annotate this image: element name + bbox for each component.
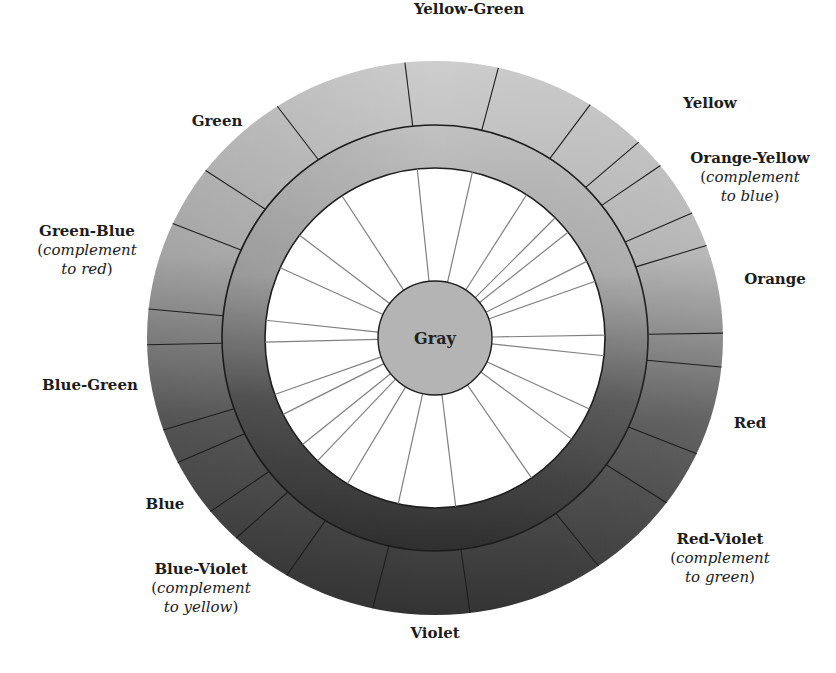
label-note: to yellow): [136, 598, 266, 617]
label-yellow: Yellow: [660, 94, 760, 113]
label-note: (complement: [665, 168, 835, 187]
label-name: Red: [720, 414, 780, 433]
label-note: (complement: [22, 241, 152, 260]
label-name: Yellow-Green: [384, 0, 554, 19]
label-name: Yellow: [660, 94, 760, 113]
label-name: Violet: [380, 624, 490, 643]
label-note: (complement: [136, 579, 266, 598]
label-red: Red: [720, 414, 780, 433]
label-name: Green-Blue: [22, 222, 152, 241]
label-name: Red-Violet: [655, 530, 785, 549]
label-name: Green: [172, 112, 262, 131]
label-red-violet: Red-Violet (complement to green): [655, 530, 785, 587]
label-yellow-green: Yellow-Green: [384, 0, 554, 19]
label-green-blue: Green-Blue (complement to red): [22, 222, 152, 279]
label-blue: Blue: [135, 495, 195, 514]
label-note: to blue): [665, 187, 835, 206]
label-green: Green: [172, 112, 262, 131]
label-note: to green): [655, 568, 785, 587]
label-name: Orange-Yellow: [665, 149, 835, 168]
label-name: Blue-Green: [30, 376, 150, 395]
label-note: to red): [22, 260, 152, 279]
label-orange-yellow: Orange-Yellow (complement to blue): [665, 149, 835, 206]
label-name: Blue-Violet: [136, 560, 266, 579]
center-label: Gray: [414, 329, 456, 348]
label-violet: Violet: [380, 624, 490, 643]
label-blue-violet: Blue-Violet (complement to yellow): [136, 560, 266, 617]
label-blue-green: Blue-Green: [30, 376, 150, 395]
label-name: Blue: [135, 495, 195, 514]
label-orange: Orange: [725, 270, 825, 289]
label-name: Orange: [725, 270, 825, 289]
label-note: (complement: [655, 549, 785, 568]
